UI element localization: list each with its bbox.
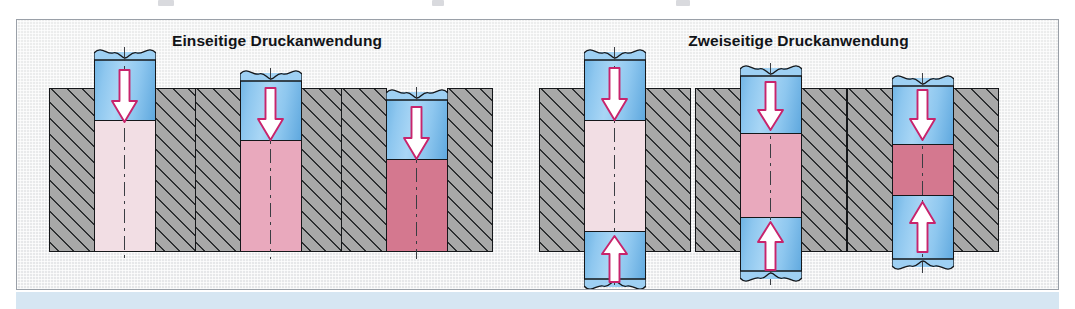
die-left-wall: [49, 88, 95, 252]
press-diagram-zweiseitig-stage-1: [529, 20, 704, 290]
die-left-wall: [195, 88, 241, 252]
force-arrow-up: [756, 220, 785, 272]
force-arrow-down: [256, 86, 285, 142]
force-arrow-down: [908, 88, 937, 142]
cropped-text-remnant-2: [432, 0, 444, 6]
die-left-wall: [539, 88, 585, 252]
cropped-text-remnant-1: [158, 0, 174, 6]
die-right-wall: [447, 88, 493, 252]
press-diagram-zweiseitig-stage-3: [837, 20, 1012, 290]
die-left-wall: [341, 88, 387, 252]
die-left-wall: [847, 88, 893, 252]
figure-root: Einseitige Druckanwendung Zweiseitige Dr…: [0, 0, 1075, 309]
cropped-text-remnant-3: [676, 0, 690, 6]
force-arrow-down: [110, 68, 139, 124]
die-left-wall: [695, 88, 741, 252]
force-arrow-up: [908, 200, 937, 254]
press-diagram-einseitig-stage-3: [331, 20, 501, 290]
force-arrow-up: [600, 234, 629, 284]
force-arrow-down: [600, 66, 629, 122]
force-arrow-down: [402, 105, 431, 161]
press-diagram-zweiseitig-stage-2: [685, 20, 860, 290]
diagram-panel: Einseitige Druckanwendung Zweiseitige Dr…: [16, 19, 1059, 290]
die-right-wall: [953, 88, 999, 252]
press-diagram-einseitig-stage-1: [39, 20, 209, 290]
force-arrow-down: [756, 80, 785, 132]
press-diagram-einseitig-stage-2: [185, 20, 355, 290]
bottom-color-band: [16, 292, 1059, 309]
